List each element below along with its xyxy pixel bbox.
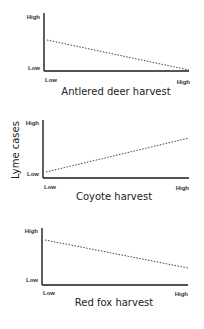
x-axis-title: Red fox harvest <box>75 297 153 308</box>
y-low-label: Low <box>26 277 38 283</box>
x-low-label: Low <box>44 184 56 190</box>
panel-redfox: High Low Low High Red fox harvest <box>25 228 189 308</box>
x-axis-title: Antlered deer harvest <box>61 86 170 97</box>
panel-deer: High Low Low High Antlered deer harvest <box>27 13 191 97</box>
y-high-label: High <box>26 120 40 126</box>
x-axis-title: Coyote harvest <box>76 191 152 202</box>
y-low-label: Low <box>28 65 40 71</box>
panel-coyote: High Low Low High Coyote harvest Lyme ca… <box>10 120 189 202</box>
x-low-label: Low <box>45 77 57 83</box>
x-high-label: High <box>175 291 189 297</box>
trend-line <box>46 138 189 172</box>
y-high-label: High <box>25 228 39 234</box>
trend-line <box>45 240 188 268</box>
x-low-label: Low <box>43 290 55 296</box>
y-low-label: Low <box>27 171 39 177</box>
chart-figure: High Low Low High Antlered deer harvest … <box>0 0 204 329</box>
y-axis-title: Lyme cases <box>10 121 21 179</box>
x-high-label: High <box>176 185 190 191</box>
x-high-label: High <box>177 79 191 85</box>
y-high-label: High <box>27 14 41 20</box>
trend-line <box>47 40 189 70</box>
